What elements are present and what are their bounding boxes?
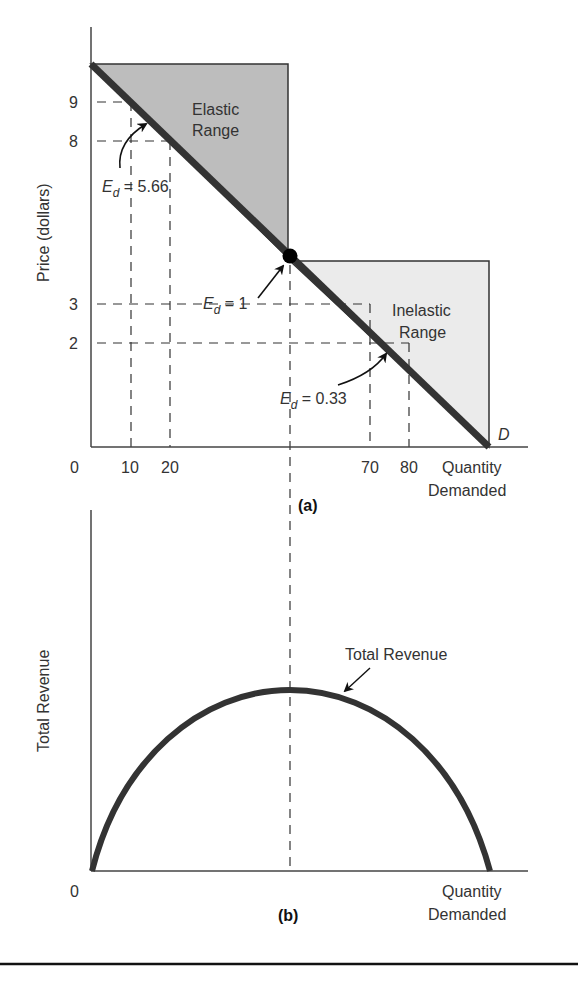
- y-label-a: Price (dollars): [35, 183, 52, 282]
- arrow-unit-icon: [258, 266, 283, 298]
- y-tick-3: 3: [69, 296, 78, 313]
- caption-a: (a): [298, 497, 318, 514]
- y-tick-8: 8: [69, 133, 78, 150]
- x-tick-70: 70: [361, 459, 379, 476]
- panel-a: 9 8 3 2 0 10 20 70 80 Quantity Demanded …: [35, 27, 528, 871]
- panel-b: Total Revenue Total Revenue 0 Quantity D…: [35, 510, 528, 924]
- x-label-b-line1: Quantity: [442, 883, 502, 900]
- inelastic-label-2: Range: [399, 324, 446, 341]
- arrow-inelastic-icon: [338, 354, 386, 385]
- x-tick-10: 10: [121, 459, 139, 476]
- x-label-a-line2: Demanded: [428, 482, 506, 499]
- y-label-b: Total Revenue: [35, 650, 52, 752]
- unit-elastic-point: [283, 249, 298, 264]
- ed-elastic-annotation: Ed = 5.66: [102, 178, 169, 200]
- x-label-b-line2: Demanded: [428, 906, 506, 923]
- origin-b: 0: [70, 883, 79, 900]
- demand-label: D: [498, 426, 510, 443]
- elasticity-figure: 9 8 3 2 0 10 20 70 80 Quantity Demanded …: [0, 0, 578, 984]
- elastic-label-2: Range: [192, 122, 239, 139]
- total-revenue-curve: [92, 690, 490, 871]
- arrow-tr-icon: [345, 668, 370, 691]
- caption-b: (b): [278, 907, 298, 924]
- y-tick-9: 9: [69, 94, 78, 111]
- y-tick-2: 2: [69, 335, 78, 352]
- x-tick-80: 80: [400, 459, 418, 476]
- ed-inelastic-annotation: Ed = 0.33: [280, 390, 347, 412]
- x-label-a-line1: Quantity: [442, 459, 502, 476]
- x-tick-20: 20: [161, 459, 179, 476]
- elastic-label-1: Elastic: [192, 101, 239, 118]
- arrow-elastic-icon: [120, 124, 146, 168]
- origin-a: 0: [70, 459, 79, 476]
- tr-curve-label: Total Revenue: [345, 646, 447, 663]
- ed-unit-annotation: Ed = 1: [203, 295, 248, 317]
- inelastic-label-1: Inelastic: [392, 302, 451, 319]
